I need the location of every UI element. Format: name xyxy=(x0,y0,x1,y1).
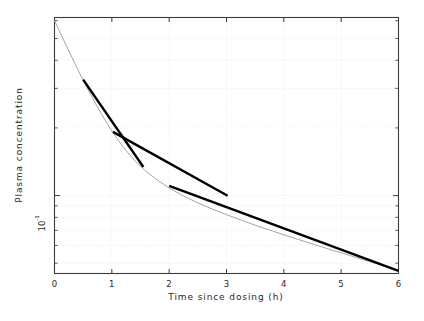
x-tick-label: 4 xyxy=(281,279,287,289)
gridlines-group xyxy=(55,18,399,274)
chart-figure: 0123456 10 -1 Time since dosing (h) Plas… xyxy=(0,0,424,321)
x-axis-title: Time since dosing (h) xyxy=(167,292,283,302)
x-tick-label: 6 xyxy=(396,279,402,289)
tangent-segment-a xyxy=(83,80,143,167)
tick-marks-group xyxy=(55,18,399,274)
y-axis-title: Plasma concentration xyxy=(14,87,24,203)
y-tick-label-group: 10 -1 xyxy=(34,215,47,232)
x-tick-label: 0 xyxy=(52,279,58,289)
x-tick-label: 5 xyxy=(338,279,344,289)
x-tick-labels-group: 0123456 xyxy=(52,279,402,289)
x-tick-label: 3 xyxy=(224,279,230,289)
x-tick-label: 1 xyxy=(109,279,115,289)
y-tick-label-exponent: -1 xyxy=(34,215,40,221)
plot-canvas: 0123456 10 -1 Time since dosing (h) Plas… xyxy=(0,0,424,321)
y-tick-label-base: 10 xyxy=(37,220,47,231)
plasma-concentration-curve xyxy=(55,21,399,271)
x-tick-label: 2 xyxy=(166,279,172,289)
axes-frame xyxy=(55,18,399,274)
